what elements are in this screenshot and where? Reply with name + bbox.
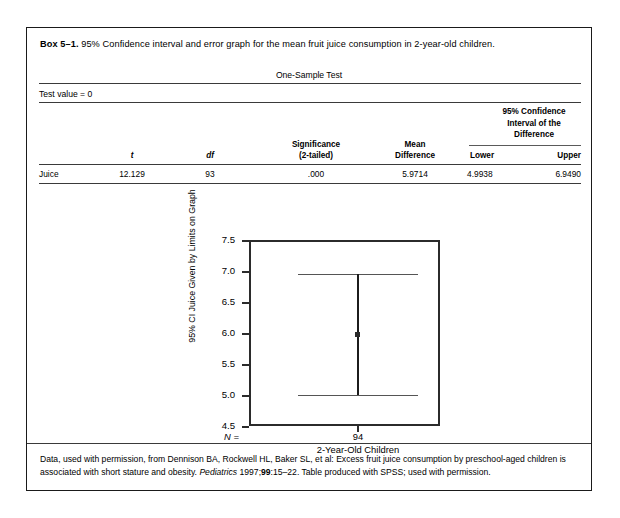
table-rule-under-headers	[39, 164, 581, 165]
chart-y-tick-mark-4.5	[242, 426, 249, 428]
table-row-label-juice: Juice	[39, 169, 59, 179]
chart-error-bar-lower-cap	[298, 395, 418, 396]
footnote-rule	[27, 443, 591, 444]
chart-mean-marker	[355, 332, 360, 337]
table-span-header-ci: 95% Confidence Interval of the Differenc…	[469, 106, 599, 141]
table-column-header-t: t	[117, 150, 147, 161]
table-span-header-line-1: 95% Confidence	[469, 106, 599, 118]
table-cell-ci-upper: 6.9490	[527, 169, 581, 179]
chart-y-tick-label-6.5: 6.5	[209, 297, 235, 307]
chart-y-axis-label: 95% CI Juice Given by Limits on Graph	[187, 171, 197, 361]
chart-y-tick-mark-7.0	[242, 271, 249, 273]
table-cell-t: 12.129	[105, 169, 159, 179]
footnote-part-3: :15–22. Table produced with SPSS; used w…	[271, 467, 491, 477]
footnote-volume: 99	[261, 467, 271, 477]
figure-caption-text: 95% Confidence interval and error graph …	[81, 39, 495, 49]
chart-y-tick-label-6.0: 6.0	[209, 328, 235, 338]
chart-y-tick-mark-5.0	[242, 395, 249, 397]
table-column-header-df: df	[195, 150, 225, 161]
chart-y-tick-label-7.5: 7.5	[209, 235, 235, 245]
table-column-header-significance-line-1: Significance	[273, 139, 359, 150]
chart-y-tick-label-5.5: 5.5	[209, 359, 235, 369]
chart-n-value: 94	[333, 431, 383, 442]
table-span-header-line-3: Difference	[469, 129, 599, 141]
table-column-header-significance: Significance (2-tailed)	[273, 139, 359, 161]
table-title: One-Sample Test	[27, 70, 591, 80]
footnote-journal-name: Pediatrics	[199, 467, 237, 477]
chart-y-tick-mark-5.5	[242, 364, 249, 366]
chart-plot-frame	[249, 240, 440, 426]
error-bar-chart: 95% CI Juice Given by Limits on Graph 7.…	[157, 203, 457, 438]
footnote-part-2: 1997;	[237, 467, 261, 477]
figure-box: Box 5–1. 95% Confidence interval and err…	[26, 27, 592, 491]
figure-caption: Box 5–1. 95% Confidence interval and err…	[40, 38, 579, 51]
table-span-header-line-2: Interval of the	[469, 118, 599, 130]
chart-y-tick-mark-6.5	[242, 302, 249, 304]
table-rule-under-span-header	[469, 145, 581, 146]
table-cell-significance: .000	[279, 169, 353, 179]
chart-y-tick-mark-6.0	[242, 333, 249, 335]
table-cell-mean-difference: 5.9714	[377, 169, 453, 179]
chart-y-tick-mark-7.5	[242, 240, 249, 242]
chart-y-tick-label-4.5: 4.5	[209, 421, 235, 431]
table-rule-under-testvalue	[39, 102, 581, 103]
chart-n-equals-label: N =	[224, 431, 239, 442]
figure-caption-label: Box 5–1.	[40, 39, 79, 49]
table-test-value-note: Test value = 0	[39, 89, 92, 99]
table-column-header-mean-difference-line-2: Difference	[375, 150, 455, 161]
table-column-header-significance-line-2: (2-tailed)	[273, 150, 359, 161]
chart-y-tick-label-5.0: 5.0	[209, 390, 235, 400]
chart-y-tick-label-7.0: 7.0	[209, 266, 235, 276]
table-column-header-mean-difference-line-1: Mean	[375, 139, 455, 150]
figure-footnote: Data, used with permission, from Denniso…	[40, 453, 577, 478]
table-column-header-lower: Lower	[470, 150, 518, 161]
table-cell-ci-lower: 4.9938	[467, 169, 519, 179]
table-column-header-upper: Upper	[531, 150, 581, 161]
table-rule-bottom	[39, 183, 581, 184]
table-rule-top	[39, 83, 581, 84]
table-column-header-mean-difference: Mean Difference	[375, 139, 455, 161]
